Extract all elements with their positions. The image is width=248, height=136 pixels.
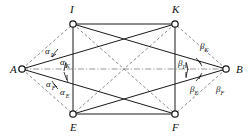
angle-label-beta-I: βI bbox=[177, 58, 185, 70]
solid-edge-b-e bbox=[73, 69, 226, 114]
arc-beta-F bbox=[196, 73, 202, 81]
vertex-node-f bbox=[172, 111, 178, 117]
angle-subscript-beta-F: F bbox=[219, 90, 224, 96]
vertex-node-a bbox=[19, 66, 25, 72]
diagram-canvas: ABIKEF αIαKαFαEβKβIβEβF bbox=[0, 0, 248, 136]
angle-subscript-beta-E: E bbox=[193, 90, 198, 96]
angle-symbol-alpha-F: α bbox=[46, 79, 51, 89]
angle-symbol-alpha-K: α bbox=[60, 57, 65, 67]
angle-label-beta-E: βE bbox=[189, 84, 198, 96]
angle-subscript-alpha-F: F bbox=[51, 85, 56, 91]
geometry-figure: ABIKEF αIαKαFαEβKβIβEβF bbox=[0, 0, 248, 136]
vertex-label-b: B bbox=[236, 63, 243, 75]
solid-edge-a-f bbox=[22, 69, 175, 114]
vertex-label-a: A bbox=[9, 63, 17, 75]
angle-subscript-beta-K: K bbox=[203, 47, 209, 53]
angle-label-beta-F: βF bbox=[215, 84, 224, 96]
angle-labels-group: αIαKαFαEβKβIβEβF bbox=[45, 41, 224, 99]
vertex-label-k: K bbox=[171, 3, 180, 15]
angle-subscript-alpha-E: E bbox=[65, 93, 70, 99]
vertex-label-e: E bbox=[69, 121, 77, 133]
vertex-node-k bbox=[172, 21, 178, 27]
vertex-node-b bbox=[223, 66, 229, 72]
vertex-node-i bbox=[70, 21, 76, 27]
angle-symbol-alpha-I: α bbox=[45, 46, 50, 56]
angle-label-alpha-I: αI bbox=[45, 46, 54, 58]
angle-label-alpha-K: αK bbox=[60, 57, 71, 69]
angle-label-alpha-E: αE bbox=[60, 87, 70, 99]
angle-subscript-beta-I: I bbox=[181, 64, 185, 70]
angle-subscript-alpha-K: K bbox=[65, 63, 71, 69]
vertex-label-i: I bbox=[69, 3, 75, 15]
vertex-label-f: F bbox=[171, 121, 179, 133]
angle-label-beta-K: βK bbox=[199, 41, 209, 53]
vertex-node-e bbox=[70, 111, 76, 117]
angle-label-alpha-F: αF bbox=[46, 79, 56, 91]
angle-symbol-alpha-E: α bbox=[60, 87, 65, 97]
